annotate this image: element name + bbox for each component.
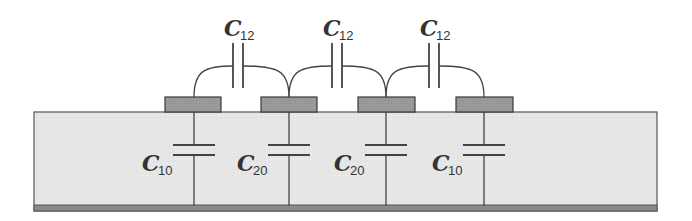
capacitor-subscript: 10 bbox=[158, 163, 172, 178]
mutual-capacitor-12: C12 bbox=[289, 15, 386, 97]
conductor-strip-4 bbox=[456, 97, 513, 112]
capacitor-subscript: 20 bbox=[350, 163, 364, 178]
conductor-strip-2 bbox=[261, 97, 317, 112]
capacitor-subscript: 20 bbox=[253, 163, 267, 178]
conductors bbox=[165, 97, 513, 112]
mutual-capacitor-12: C12 bbox=[386, 15, 484, 97]
conductor-strip-1 bbox=[165, 97, 221, 112]
capacitor-subscript: 10 bbox=[448, 163, 462, 178]
mutual-capacitors: C12C12C12 bbox=[194, 15, 484, 97]
mutual-capacitor-12: C12 bbox=[194, 15, 289, 97]
capacitor-subscript: 12 bbox=[240, 28, 254, 43]
ground-plane bbox=[34, 205, 657, 211]
diagram-svg: C12C12C12 C10C20C20C10 bbox=[0, 0, 692, 221]
conductor-strip-3 bbox=[358, 97, 415, 112]
capacitor-subscript: 12 bbox=[339, 28, 353, 43]
capacitance-diagram: C12C12C12 C10C20C20C10 bbox=[0, 0, 692, 221]
capacitor-subscript: 12 bbox=[436, 28, 450, 43]
ground-strip bbox=[34, 205, 657, 211]
